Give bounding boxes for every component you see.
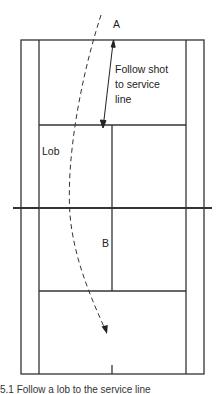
tennis-court-diagram	[0, 0, 220, 394]
lob-trajectory	[69, 15, 105, 329]
arrowhead-bottom-icon	[100, 120, 106, 128]
label-follow-1: Follow shot	[115, 63, 168, 76]
label-follow-2: to service	[115, 78, 160, 91]
figure-caption: 5.1 Follow a lob to the service line	[0, 384, 151, 394]
label-lob: Lob	[42, 145, 60, 158]
arrowhead-top-icon	[111, 40, 115, 47]
label-point-a: A	[113, 18, 120, 31]
follow-arrow	[100, 40, 115, 128]
lob-arrowhead-icon	[102, 325, 108, 334]
label-point-b: B	[102, 237, 109, 250]
label-follow-3: line	[115, 93, 131, 106]
